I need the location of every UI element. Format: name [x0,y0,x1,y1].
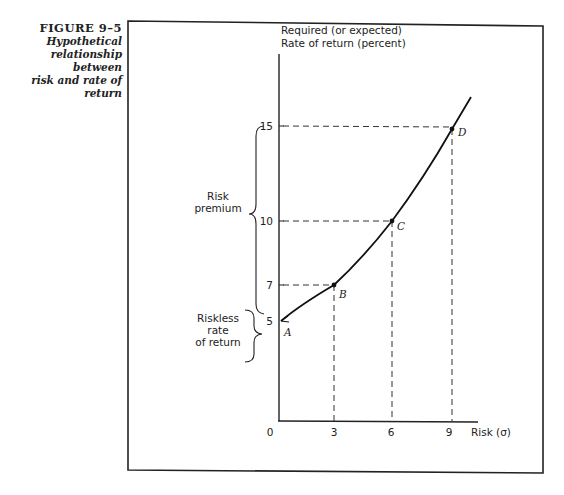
risk-premium-label: Risk [207,190,230,202]
x-tick-label: 9 [446,426,453,438]
risk-return-curve [281,97,471,321]
chart: Required (or expected) Rate of return (p… [0,0,564,495]
x-tick-label: 3 [331,426,338,438]
y-tick-label: 10 [260,215,273,227]
point-label-a: A [283,326,292,338]
x-axis-label: Risk (σ) [471,426,511,438]
point-b-marker [332,283,337,288]
y-tick-label: 7 [266,279,273,291]
x-axis [278,421,478,422]
point-label-d: D [457,126,467,138]
x-tick-label: 6 [388,426,395,438]
point-d-marker [450,127,455,132]
riskless-rate-label: rate [207,324,228,336]
y-axis-label-line2: Rate of return (percent) [281,37,406,49]
riskless-rate-label: of return [195,336,241,348]
figure-frame [128,21,543,473]
riskless-rate-label: Riskless [197,312,239,324]
riskless-rate-brace [245,310,262,362]
point-label-b: B [338,288,347,300]
risk-premium-label: premium [194,202,241,214]
point-label-c: C [397,220,405,232]
x-tick-label: 0 [267,426,274,438]
point-c-marker [390,219,395,224]
y-axis-label-line1: Required (or expected) [281,24,402,36]
y-tick-label: 5 [266,315,273,327]
